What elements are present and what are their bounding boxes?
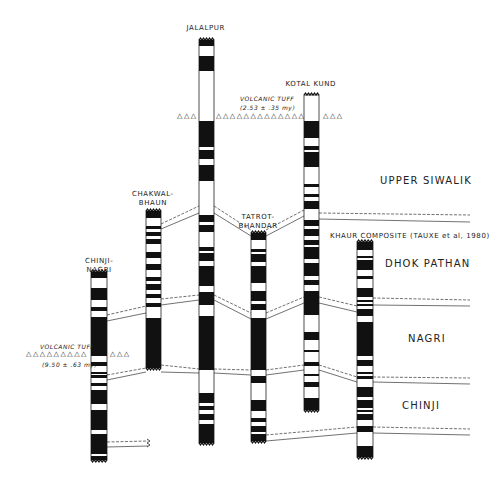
correlation-line	[161, 372, 199, 373]
normal-polarity-band	[357, 414, 373, 420]
correlation-line	[161, 365, 199, 369]
correlation-line	[161, 300, 199, 305]
magnetostratigraphy-diagram: CHINJI-NAGRICHAKWAL-BHAUNJALALPURTATROT-…	[0, 0, 492, 487]
normal-polarity-band	[91, 375, 107, 378]
formation-label-dhok-pathan: DHOK PATHAN	[385, 258, 470, 269]
correlation-line	[266, 297, 304, 313]
section-label-line1: KOTAL KUND	[286, 80, 337, 89]
normal-polarity-band	[199, 253, 214, 261]
normal-polarity-band	[357, 360, 373, 366]
correlation-line	[107, 306, 146, 315]
section-label-jalalpur: JALALPUR	[187, 24, 226, 33]
normal-polarity-band	[304, 229, 319, 236]
normal-polarity-band	[199, 424, 214, 443]
normal-polarity-band	[199, 406, 214, 410]
section-label-line2: BHAUN	[132, 199, 174, 208]
normal-polarity-band	[357, 400, 373, 408]
normal-polarity-band	[304, 146, 319, 150]
correlation-line	[214, 295, 251, 313]
section-label-line1: KHAUR COMPOSITE (TAUXE et al, 1980)	[330, 232, 490, 241]
normal-polarity-band	[251, 266, 266, 283]
section-label-line1: TATROT-	[239, 213, 278, 222]
normal-polarity-band	[304, 184, 319, 187]
normal-polarity-band	[357, 446, 373, 457]
section-label-line1: CHINJI-	[85, 257, 113, 266]
section-label-chakwal-bhaun: CHAKWAL-BHAUN	[132, 190, 174, 208]
correlation-line	[319, 370, 357, 382]
correlation-line	[319, 213, 470, 215]
correlation-line	[266, 303, 304, 319]
normal-polarity-band	[146, 226, 161, 229]
section-label-line1: CHAKWAL-	[132, 190, 174, 199]
normal-polarity-band	[304, 220, 319, 226]
normal-polarity-band	[251, 254, 266, 262]
correlation-diagram-svg	[0, 0, 492, 487]
normal-polarity-band	[304, 332, 319, 340]
section-columns	[91, 38, 373, 462]
normal-polarity-band	[304, 152, 319, 167]
correlation-line	[107, 372, 146, 380]
normal-polarity-band	[146, 239, 161, 244]
correlation-line	[373, 433, 470, 435]
normal-polarity-band	[199, 225, 214, 232]
formation-label-upper-siwalik: UPPER SIWALIK	[380, 175, 472, 186]
section-column-kotal-kund	[304, 93, 319, 412]
normal-polarity-band	[357, 300, 373, 302]
normal-polarity-band	[357, 322, 373, 356]
normal-polarity-band	[146, 211, 161, 218]
normal-polarity-band	[199, 266, 214, 286]
correlation-line	[107, 313, 146, 321]
normal-polarity-band	[304, 350, 319, 352]
normal-polarity-band	[199, 292, 214, 305]
normal-polarity-band	[91, 307, 107, 311]
normal-polarity-band	[146, 232, 161, 236]
normal-polarity-band	[146, 284, 161, 290]
tuff-label-upper-tuff: VOLCANIC TUFF	[240, 94, 294, 103]
normal-polarity-band	[91, 372, 107, 374]
normal-polarity-band	[357, 242, 373, 250]
normal-polarity-band	[304, 382, 319, 387]
column-outline	[199, 40, 214, 443]
correlation-line	[373, 382, 470, 384]
normal-polarity-band	[91, 383, 107, 386]
normal-polarity-band	[304, 121, 319, 138]
section-column-tatrot-bhandar	[251, 231, 266, 443]
normal-polarity-band	[357, 276, 373, 279]
correlation-line	[266, 427, 357, 435]
normal-polarity-band	[146, 264, 161, 270]
normal-polarity-band	[251, 304, 266, 310]
correlation-line	[373, 377, 470, 378]
normal-polarity-band	[91, 410, 107, 430]
correlation-line	[319, 365, 357, 377]
section-label-chinji-nagri: CHINJI-NAGRI	[85, 257, 113, 275]
normal-polarity-band	[357, 288, 373, 297]
correlation-line	[107, 441, 148, 442]
normal-polarity-band	[304, 247, 319, 259]
normal-polarity-band	[251, 249, 266, 252]
tuff-age-upper-tuff: (2.53 ± .35 my)	[240, 103, 295, 112]
normal-polarity-band	[357, 387, 373, 397]
normal-polarity-band	[199, 247, 214, 251]
section-column-chakwal-bhaun	[146, 209, 161, 370]
normal-polarity-band	[146, 252, 161, 258]
normal-polarity-band	[199, 56, 214, 71]
normal-polarity-band	[146, 318, 161, 368]
section-column-khaur-composite	[357, 240, 373, 459]
normal-polarity-band	[304, 280, 319, 285]
section-label-line2: BHANDAR	[239, 222, 278, 231]
normal-polarity-band	[304, 374, 319, 376]
correlation-line	[214, 300, 251, 319]
section-label-kotal-kund: KOTAL KUND	[286, 80, 337, 89]
normal-polarity-band	[357, 410, 373, 412]
normal-polarity-band	[199, 316, 214, 370]
normal-polarity-band	[357, 256, 373, 258]
section-label-khaur-composite: KHAUR COMPOSITE (TAUXE et al, 1980)	[330, 232, 490, 241]
correlation-line	[373, 427, 470, 429]
normal-polarity-band	[251, 418, 266, 422]
normal-polarity-band	[304, 362, 319, 366]
section-label-line1: JALALPUR	[187, 24, 226, 33]
normal-polarity-band	[304, 398, 319, 410]
normal-polarity-band	[304, 194, 319, 197]
correlation-line	[266, 370, 304, 375]
normal-polarity-band	[251, 318, 266, 370]
